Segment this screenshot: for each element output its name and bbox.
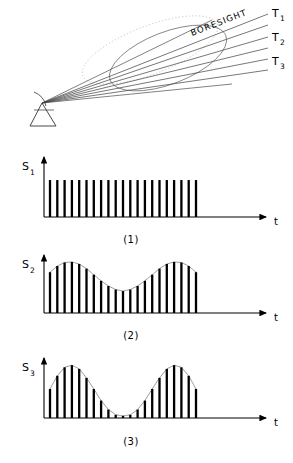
ray-t2-upper [42, 37, 268, 103]
pulse-bar [115, 290, 117, 313]
ray-t1-upper [42, 14, 268, 103]
pulse-bar [195, 180, 197, 217]
technical-figure: BORESIGHT T 1 T 2 T 3 S 1 t [0, 0, 293, 463]
plot3-ylabel-sub: 3 [30, 369, 35, 378]
pulse-bar [195, 272, 197, 313]
pulse-bar [136, 180, 138, 217]
ray-t1-lower [42, 25, 268, 103]
pulse-bar [180, 180, 182, 217]
antenna-dish-arc [34, 92, 46, 106]
pulse-bar [166, 264, 168, 313]
beam-label-t1: T 1 [271, 7, 285, 23]
pulse-bar [85, 180, 87, 217]
pulse-bar [63, 180, 65, 217]
plot3-ylabel: S 3 [22, 361, 35, 378]
beam-ray-group [42, 14, 268, 103]
plot3-ylabel-base: S [22, 361, 29, 374]
pulse-bar [144, 180, 146, 217]
plot3-xlabel: t [274, 417, 278, 428]
signal-plot-3: S 3 t (3) [22, 358, 278, 447]
plot1-ylabel-sub: 1 [30, 168, 35, 177]
pulse-bar [100, 401, 102, 418]
pulse-bar [188, 376, 190, 418]
pulse-bar [129, 180, 131, 217]
pulse-bar [166, 180, 168, 217]
pulse-bar [93, 275, 95, 313]
pulse-bar [93, 389, 95, 418]
t3-sub: 3 [280, 62, 285, 71]
plot2-ylabel: S 2 [22, 258, 35, 275]
radar-beam-scan-diagram: BORESIGHT T 1 T 2 T 3 [30, 2, 285, 126]
beam-label-t3: T 3 [271, 55, 285, 71]
pulse-bar [144, 281, 146, 313]
antenna-symbol [30, 92, 56, 126]
ray-t2-lower [42, 48, 268, 103]
pulse-bar [173, 180, 175, 217]
antenna-triangle [30, 103, 56, 126]
pulse-bar [173, 262, 175, 313]
pulse-bar [71, 365, 73, 418]
t2-sub: 2 [280, 38, 285, 47]
plot1-caption: (1) [123, 234, 139, 245]
pulse-bar [122, 416, 124, 418]
plot2-pulses [49, 262, 197, 313]
signal-plot-1: S 1 t (1) [22, 157, 278, 245]
pulse-bar [63, 262, 65, 313]
figure-canvas: BORESIGHT T 1 T 2 T 3 S 1 t [0, 0, 293, 463]
pulse-bar [129, 415, 131, 418]
t2-base: T [271, 31, 279, 44]
pulse-bar [158, 269, 160, 313]
pulse-bar [63, 367, 65, 418]
pulse-bar [93, 180, 95, 217]
pulse-bar [166, 369, 168, 418]
pulse-bar [151, 389, 153, 418]
pulse-bar [188, 180, 190, 217]
plot1-ylabel-base: S [22, 160, 29, 173]
pulse-bar [56, 376, 58, 418]
pulse-bar [173, 365, 175, 418]
t1-base: T [271, 7, 279, 20]
pulse-bar [49, 389, 51, 418]
ray-t3-upper [42, 59, 268, 103]
pulse-bar [180, 367, 182, 418]
pulse-bar [78, 264, 80, 313]
pulse-bar [151, 180, 153, 217]
pulse-bar [122, 291, 124, 313]
pulse-bar [180, 262, 182, 313]
t3-base: T [271, 55, 279, 68]
pulse-bar [115, 415, 117, 418]
pulse-bar [107, 410, 109, 418]
plot2-ylabel-sub: 2 [30, 266, 35, 275]
plot2-xlabel: t [274, 312, 278, 323]
pulse-bar [115, 180, 117, 217]
pulse-bar [195, 389, 197, 418]
pulse-bar [136, 410, 138, 418]
pulse-bar [49, 180, 51, 217]
plot3-caption: (3) [123, 436, 139, 447]
pulse-bar [71, 262, 73, 313]
t1-sub: 1 [280, 14, 285, 23]
pulse-bar [122, 180, 124, 217]
pulse-bar [188, 266, 190, 313]
pulse-bar [129, 290, 131, 313]
plot1-ylabel: S 1 [22, 160, 35, 177]
plot2-caption: (2) [123, 330, 139, 341]
pulse-bar [49, 272, 51, 313]
pulse-bar [136, 286, 138, 313]
pulse-bar [56, 180, 58, 217]
pulse-bar [100, 281, 102, 313]
pulse-bar [85, 269, 87, 313]
pulse-bar [107, 286, 109, 313]
pulse-bar [85, 378, 87, 418]
pulse-bar [71, 180, 73, 217]
pulse-bar [144, 401, 146, 418]
pulse-bar [158, 378, 160, 418]
pulse-bar [56, 266, 58, 313]
plot1-pulses [49, 180, 197, 217]
pulse-bar [107, 180, 109, 217]
pulse-bar [158, 180, 160, 217]
pulse-bar [151, 275, 153, 313]
beam-label-t2: T 2 [271, 31, 285, 47]
signal-plot-2: S 2 t (2) [22, 255, 278, 341]
pulse-bar [78, 369, 80, 418]
